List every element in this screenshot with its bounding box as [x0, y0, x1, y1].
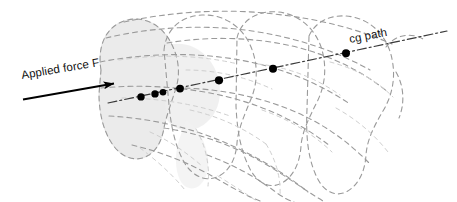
force-cg-path-diagram: Applied force F cg path: [0, 0, 457, 202]
cg-point-5: [215, 76, 223, 84]
cg-path-label: cg path: [348, 26, 388, 45]
cg-point-2: [151, 90, 158, 97]
cg-point-1: [137, 93, 144, 100]
cg-point-3: [160, 89, 167, 96]
cg-point-7: [342, 49, 350, 57]
shaded-cross-section: [99, 19, 220, 188]
applied-force-label: Applied force F: [20, 56, 100, 81]
cg-point-4: [176, 85, 184, 93]
diagram-canvas: Applied force F cg path: [0, 0, 457, 202]
cg-point-6: [269, 65, 277, 73]
